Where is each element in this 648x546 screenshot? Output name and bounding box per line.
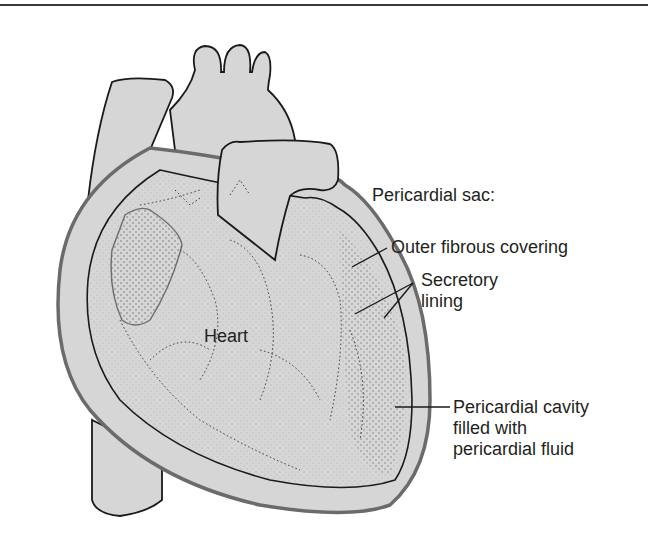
label-heart: Heart <box>204 326 248 347</box>
label-pericardial-cavity-1: Pericardial cavity <box>453 397 589 418</box>
label-secretory-lining-1: Secretory <box>421 270 498 291</box>
label-pericardial-cavity-3: pericardial fluid <box>453 439 574 460</box>
heart-illustration <box>0 0 648 546</box>
label-pericardial-cavity-2: filled with <box>453 418 527 439</box>
label-secretory-lining-2: lining <box>421 291 463 312</box>
label-outer-fibrous-covering: Outer fibrous covering <box>391 237 568 258</box>
label-pericardial-sac: Pericardial sac: <box>372 185 495 206</box>
